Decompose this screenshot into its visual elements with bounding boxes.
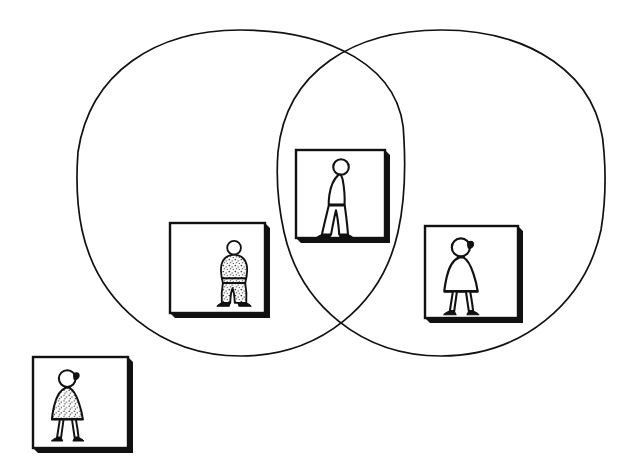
- frame-outside[interactable]: [33, 357, 133, 453]
- frame-border: [170, 223, 265, 313]
- frame-left-only[interactable]: [170, 223, 270, 318]
- frame-border: [33, 357, 128, 448]
- diagram-canvas: venn-diagram hand-drawn line art, no tex…: [0, 0, 628, 475]
- frame-intersection[interactable]: [296, 150, 390, 243]
- venn-diagram: [0, 0, 628, 475]
- frame-right-only[interactable]: [425, 226, 523, 323]
